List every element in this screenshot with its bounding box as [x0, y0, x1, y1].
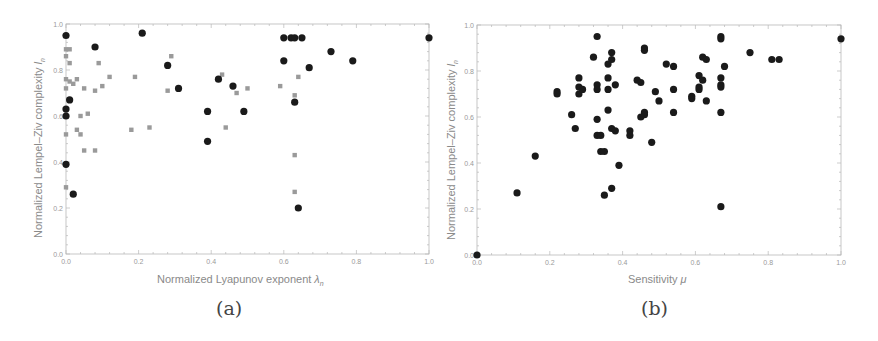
data-point-circle: [597, 132, 604, 139]
y-axis-title-b: Normalized Lempel–Ziv complexity ln: [445, 60, 459, 240]
x-axis-title-b: Sensitivity μ: [628, 273, 687, 285]
data-point-circle: [553, 90, 560, 97]
x-tick-label: 1.0: [836, 259, 846, 266]
data-point-circle: [572, 125, 579, 132]
data-point-circle: [717, 35, 724, 42]
data-point-circle: [670, 63, 677, 70]
data-point-circle: [837, 35, 844, 42]
data-point-circle: [703, 97, 710, 104]
y-tick-label: 1.0: [464, 22, 474, 29]
data-point-circle: [626, 132, 633, 139]
x-axis-title-text: Sensitivity: [628, 273, 681, 285]
data-point-circle: [594, 86, 601, 93]
data-point-circle: [590, 54, 597, 61]
data-point-circle: [604, 107, 611, 114]
data-point-circle: [717, 74, 724, 81]
y-tick-label: 0.8: [464, 68, 474, 75]
data-point-circle: [655, 97, 662, 104]
data-point-circle: [612, 81, 619, 88]
data-point-circle: [768, 56, 775, 63]
data-point-circle: [721, 63, 728, 70]
data-point-circle: [641, 47, 648, 54]
data-point-circle: [608, 49, 615, 56]
data-point-circle: [594, 33, 601, 40]
x-tick-label: 0.4: [618, 259, 628, 266]
data-point-circle: [601, 148, 608, 155]
data-point-circle: [608, 185, 615, 192]
data-point-circle: [688, 95, 695, 102]
x-tick-label: 0.6: [691, 259, 701, 266]
data-point-circle: [579, 86, 586, 93]
data-point-circle: [568, 111, 575, 118]
data-point-circle: [746, 49, 753, 56]
data-point-circle: [776, 56, 783, 63]
data-point-circle: [604, 86, 611, 93]
caption-b: (b): [641, 297, 668, 319]
y-axis-title-text: Normalized Lempel–Ziv complexity: [445, 66, 457, 240]
x-tick-label: 0.2: [545, 259, 555, 266]
x-axis-symbol: μ: [681, 273, 687, 285]
x-tick-label: 0.0: [472, 259, 482, 266]
data-point-circle: [652, 88, 659, 95]
data-point-circle: [473, 251, 480, 258]
data-point-circle: [612, 127, 619, 134]
data-point-circle: [604, 61, 611, 68]
y-axis-symbol: l: [445, 64, 457, 66]
data-point-circle: [699, 77, 706, 84]
data-point-circle: [663, 61, 670, 68]
data-point-circle: [601, 192, 608, 199]
y-tick-label: 0.6: [464, 114, 474, 121]
data-point-circle: [695, 84, 702, 91]
data-point-circle: [717, 203, 724, 210]
data-point-circle: [703, 56, 710, 63]
scatter-plot-b: 0.00.20.40.60.81.00.00.20.40.60.81.0: [0, 0, 878, 341]
data-point-circle: [637, 113, 644, 120]
data-point-circle: [648, 139, 655, 146]
data-point-circle: [637, 79, 644, 86]
data-point-circle: [670, 109, 677, 116]
y-axis-subscript: n: [452, 60, 459, 64]
data-point-circle: [532, 153, 539, 160]
panel-b: 0.00.20.40.60.81.00.00.20.40.60.81.0 Sen…: [0, 0, 878, 341]
y-tick-label: 0.2: [464, 206, 474, 213]
data-point-circle: [670, 86, 677, 93]
y-tick-label: 0.0: [464, 252, 474, 259]
data-point-circle: [513, 189, 520, 196]
y-tick-label: 0.4: [464, 160, 474, 167]
data-point-circle: [575, 74, 582, 81]
data-point-circle: [717, 84, 724, 91]
data-point-circle: [604, 74, 611, 81]
data-point-circle: [717, 109, 724, 116]
plot-frame: [477, 25, 841, 255]
data-point-circle: [615, 162, 622, 169]
data-point-circle: [594, 116, 601, 123]
x-tick-label: 0.8: [763, 259, 773, 266]
